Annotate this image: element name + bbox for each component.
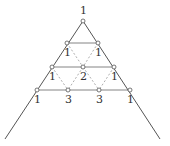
label-r3-2: 3 — [96, 93, 103, 106]
label-r2-2: 1 — [111, 70, 118, 83]
pascal-triangle-diagram: 1 1 1 1 2 1 1 3 3 1 — [0, 0, 170, 146]
label-r1-0: 1 — [64, 46, 71, 59]
right-edge — [83, 21, 160, 139]
label-r3-1: 3 — [65, 93, 72, 106]
label-r2-1: 2 — [80, 70, 87, 83]
label-apex: 1 — [80, 4, 87, 17]
left-edge — [5, 21, 83, 139]
label-r3-3: 1 — [127, 93, 134, 106]
label-r3-0: 1 — [34, 93, 41, 106]
label-r1-1: 1 — [95, 46, 102, 59]
label-r2-0: 1 — [49, 70, 56, 83]
